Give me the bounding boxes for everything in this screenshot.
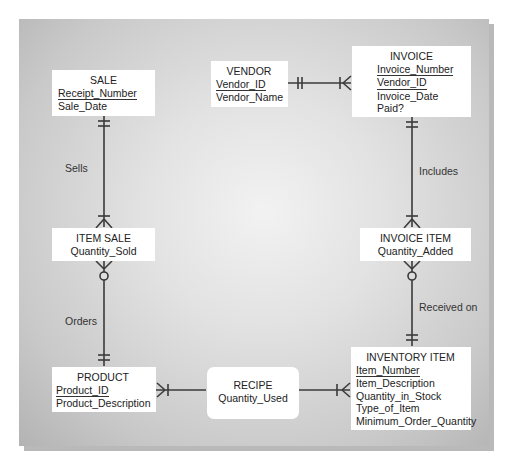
relationship-label-includes: Includes bbox=[419, 165, 458, 177]
entity-item-sale[interactable]: ITEM SALE Quantity_Sold bbox=[52, 228, 155, 261]
attribute: Invoice_Date bbox=[377, 90, 465, 103]
entity-invoice-item[interactable]: INVOICE ITEM Quantity_Added bbox=[360, 228, 471, 261]
attribute: Paid? bbox=[377, 102, 465, 115]
entity-product[interactable]: PRODUCT Product_ID Product_Description bbox=[52, 367, 156, 412]
entity-title: VENDOR bbox=[216, 65, 282, 78]
primary-key-attribute: Invoice_Number bbox=[377, 64, 453, 77]
entity-sale[interactable]: SALE Receipt_Number Sale_Date bbox=[52, 70, 155, 116]
invoice-invoice-item-connector bbox=[404, 117, 420, 228]
entity-title: RECIPE bbox=[213, 379, 293, 392]
attribute: Type_of_Item bbox=[356, 402, 465, 415]
attribute: Quantity_Sold bbox=[58, 245, 149, 258]
relationship-label-received-on: Received on bbox=[419, 301, 477, 313]
attribute: Quantity_Used bbox=[213, 392, 293, 405]
sale-item-sale-connector bbox=[96, 116, 112, 228]
entity-recipe[interactable]: RECIPE Quantity_Used bbox=[207, 367, 299, 419]
vendor-invoice-connector bbox=[288, 76, 351, 90]
entity-title: PRODUCT bbox=[56, 371, 150, 384]
recipe-inventory-item-connector bbox=[299, 383, 350, 397]
entity-vendor[interactable]: VENDOR Vendor_ID Vendor_Name bbox=[211, 61, 288, 107]
entity-title: ITEM SALE bbox=[58, 232, 149, 245]
attribute: Quantity_Added bbox=[366, 245, 465, 258]
entity-title: INVENTORY ITEM bbox=[356, 351, 465, 364]
attribute: Sale_Date bbox=[58, 100, 149, 113]
primary-key-attribute: Vendor_ID bbox=[377, 77, 427, 90]
item-sale-product-connector bbox=[96, 261, 112, 366]
product-recipe-connector bbox=[156, 383, 206, 397]
entity-title: INVOICE ITEM bbox=[366, 232, 465, 245]
attribute: Item_Description bbox=[356, 377, 465, 390]
attribute: Minimum_Order_Quantity bbox=[356, 415, 465, 428]
entity-inventory-item[interactable]: INVENTORY ITEM Item_Number Item_Descript… bbox=[351, 347, 471, 430]
relationship-label-orders: Orders bbox=[65, 315, 97, 327]
entity-title: SALE bbox=[58, 74, 149, 87]
primary-key-attribute: Item_Number bbox=[356, 365, 420, 378]
primary-key-attribute: Product_ID bbox=[56, 385, 109, 398]
invoice-item-inventory-item-connector bbox=[404, 261, 420, 346]
attribute: Quantity_in_Stock bbox=[356, 390, 465, 403]
relationship-label-sells: Sells bbox=[65, 162, 88, 174]
attribute: Product_Description bbox=[56, 397, 150, 410]
primary-key-attribute: Vendor_ID bbox=[216, 79, 266, 92]
entity-invoice[interactable]: INVOICE Invoice_Number Vendor_ID Invoice… bbox=[352, 46, 471, 117]
primary-key-attribute: Receipt_Number bbox=[58, 88, 137, 101]
attribute: Vendor_Name bbox=[216, 91, 282, 104]
entity-title: INVOICE bbox=[358, 50, 465, 63]
